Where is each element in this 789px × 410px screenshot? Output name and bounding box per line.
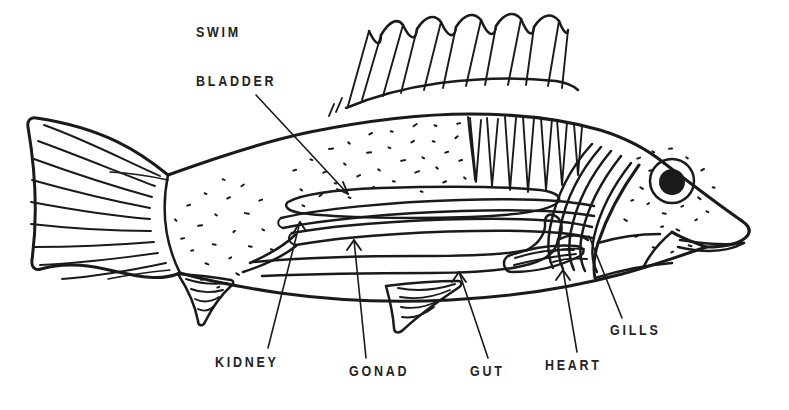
eye-pupil <box>659 169 685 195</box>
anal-fin <box>178 274 233 325</box>
figure-canvas: .ink { fill:none; stroke:#1a1a1a; stroke… <box>0 0 789 410</box>
label-gonad: GONAD <box>349 363 409 380</box>
label-gut: GUT <box>470 363 505 380</box>
caudal-fin <box>28 118 180 279</box>
label-kidney: KIDNEY <box>215 354 279 371</box>
label-gills: GILLS <box>610 322 660 339</box>
fish-anatomy-illustration: .ink { fill:none; stroke:#1a1a1a; stroke… <box>0 0 789 410</box>
pelvic-fin <box>386 281 461 332</box>
organ-gonad <box>289 219 592 245</box>
label-heart: HEART <box>545 357 602 374</box>
label-swim-bladder-line1: SWIM <box>196 24 241 41</box>
organ-kidney <box>278 199 594 228</box>
leader-lines <box>256 95 622 358</box>
label-swim-bladder-line2: BLADDER <box>196 73 276 90</box>
dorsal-fin <box>329 14 582 192</box>
